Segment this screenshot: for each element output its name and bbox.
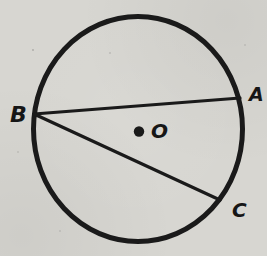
circle-diagram-svg: O B A C: [0, 0, 267, 256]
label-center-O: O: [151, 119, 168, 143]
paper-speckles: [17, 44, 245, 231]
center-point-dot: [134, 126, 144, 136]
geometry-figure: O B A C: [0, 0, 267, 256]
label-point-B: B: [10, 102, 27, 127]
label-point-A: A: [247, 83, 264, 105]
chord-BA: [34, 98, 240, 114]
label-point-C: C: [232, 198, 247, 222]
chord-BC: [34, 114, 220, 200]
